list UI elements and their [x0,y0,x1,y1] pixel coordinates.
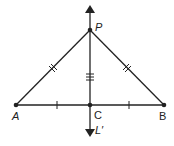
label-l-prime: L′ [95,124,104,136]
point-p [88,28,93,33]
point-c [88,103,93,108]
segment-pb [90,30,164,105]
point-b [162,103,167,108]
point-a [14,103,19,108]
label-c: C [94,109,102,121]
label-p: P [95,21,103,33]
label-a: A [11,110,19,122]
segment-ap [16,30,90,105]
label-b: B [159,110,166,122]
triangle-diagram: P A B C L′ [0,0,174,146]
